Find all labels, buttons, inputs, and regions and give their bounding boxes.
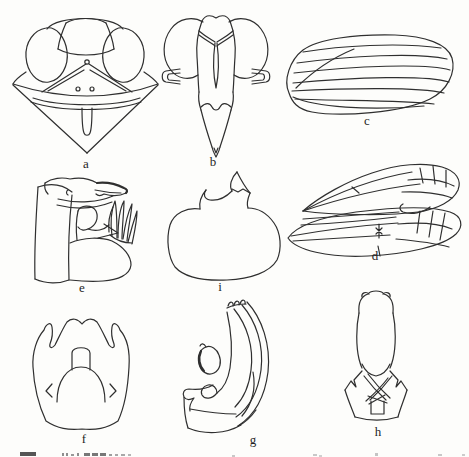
drawing-head-ventral: [162, 16, 270, 157]
caption-mark: [92, 453, 98, 456]
caption-mark: [313, 454, 317, 456]
figure-plate: a b c d e i f g h: [0, 0, 469, 457]
panel-label-e: e: [79, 281, 85, 294]
drawing-plate-with-hook: [168, 172, 280, 280]
panel-label-i: i: [218, 280, 222, 293]
drawing-head-frontal: [13, 19, 158, 154]
drawing-aedeagus-ventral: [345, 291, 407, 420]
caption-mark: [115, 454, 118, 456]
caption-mark: [84, 453, 90, 456]
caption-mark: [375, 453, 378, 456]
panel-label-a: a: [83, 157, 89, 170]
figure-line-art: [0, 0, 469, 457]
panel-label-g: g: [250, 433, 257, 446]
panel-label-c: c: [364, 114, 370, 127]
caption-mark: [66, 453, 68, 456]
caption-mark: [71, 454, 74, 456]
caption-mark: [20, 452, 36, 456]
caption-mark: [128, 454, 131, 456]
caption-mark: [62, 453, 64, 456]
panel-label-b: b: [210, 155, 217, 168]
caption-mark: [109, 454, 112, 456]
caption-mark: [438, 454, 442, 456]
drawing-forewing: [287, 35, 453, 114]
caption-mark: [77, 453, 79, 456]
drawing-hindwings: [288, 164, 461, 256]
drawing-genital-capsule-lateral: [35, 178, 137, 283]
caption-mark: [100, 453, 106, 456]
drawing-pygofer-ventral: [33, 319, 129, 429]
panel-label-d: d: [372, 249, 379, 262]
drawing-aedeagus-lateral: [183, 300, 268, 432]
caption-mark: [462, 454, 465, 456]
panel-label-f: f: [82, 432, 86, 445]
caption-mark: [121, 454, 125, 456]
panel-label-h: h: [375, 425, 382, 438]
